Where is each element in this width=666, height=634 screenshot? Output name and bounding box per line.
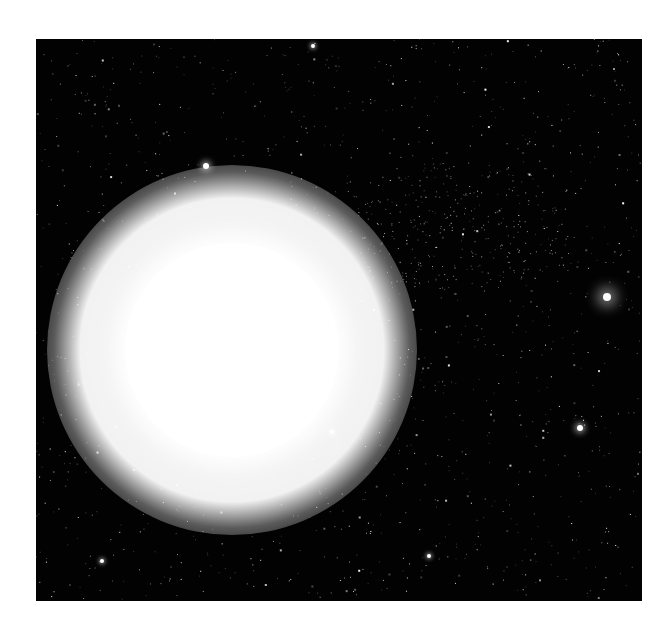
star-bottom-left-icon (100, 559, 104, 563)
sun (125, 243, 339, 457)
star-upper-left-icon (203, 163, 209, 169)
space-photo (36, 39, 642, 601)
star-right-glowing-icon (603, 293, 611, 301)
star-bottom-center-icon (427, 554, 431, 558)
star-lower-right-icon (577, 425, 583, 431)
starfield (36, 39, 642, 601)
star-top-center-icon (311, 44, 315, 48)
star-near-sun-icon (330, 430, 334, 434)
